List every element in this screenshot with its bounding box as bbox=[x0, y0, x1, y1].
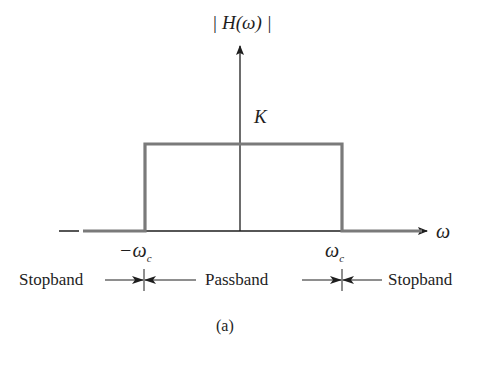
level-label: K bbox=[254, 107, 267, 126]
neg-cutoff-symbol: −ω bbox=[119, 239, 147, 261]
stopband-right-label: Stopband bbox=[388, 271, 452, 288]
passband-label: Passband bbox=[205, 271, 268, 288]
magnitude-response-curve bbox=[83, 144, 422, 231]
x-axis-label: ω bbox=[436, 221, 450, 241]
pos-cutoff-subscript: c bbox=[339, 252, 344, 264]
pos-cutoff-symbol: ω bbox=[325, 239, 339, 261]
lowpass-filter-figure: | H(ω) | K ω −ωc ωc Stopband Passband St… bbox=[0, 0, 482, 369]
y-axis-label: | H(ω) | bbox=[212, 13, 272, 32]
neg-cutoff-label: −ωc bbox=[119, 240, 152, 260]
y-axis-label-text: | H(ω) | bbox=[212, 12, 272, 33]
figure-caption: (a) bbox=[216, 318, 234, 334]
neg-cutoff-subscript: c bbox=[147, 252, 152, 264]
pos-cutoff-label: ωc bbox=[325, 240, 344, 260]
stopband-left-label: Stopband bbox=[19, 271, 83, 288]
filter-response-plot bbox=[0, 0, 482, 369]
